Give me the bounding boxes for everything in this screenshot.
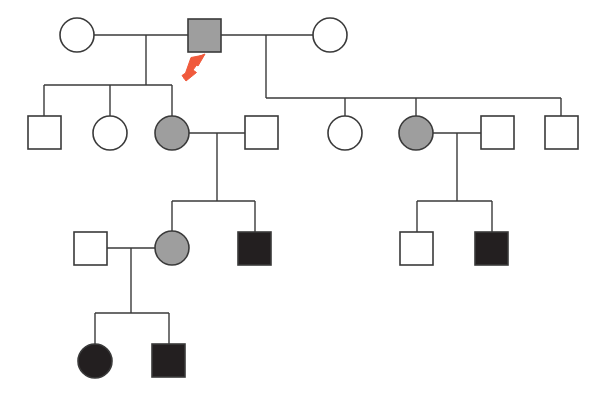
individual-IV-1-female-affected[interactable]: [78, 344, 112, 378]
individual-III-4-male-unaffected[interactable]: [400, 232, 433, 265]
individual-II-1-male-unaffected[interactable]: [28, 116, 61, 149]
individual-II-4-male-unaffected[interactable]: [245, 116, 278, 149]
individual-II-2-female-unaffected[interactable]: [93, 116, 127, 150]
individual-I-1-female-unaffected[interactable]: [60, 18, 94, 52]
individual-I-3-female-unaffected[interactable]: [313, 18, 347, 52]
individual-I-2-male-carrier-proband[interactable]: [188, 19, 221, 52]
pedigree-canvas: [0, 0, 599, 394]
individual-III-3-male-affected[interactable]: [238, 232, 271, 265]
individual-II-7-male-unaffected[interactable]: [481, 116, 514, 149]
individual-III-5-male-affected[interactable]: [475, 232, 508, 265]
individual-II-5-female-unaffected[interactable]: [328, 116, 362, 150]
individual-IV-2-male-affected[interactable]: [152, 344, 185, 377]
individual-III-2-female-carrier[interactable]: [155, 231, 189, 265]
individual-II-6-female-carrier[interactable]: [399, 116, 433, 150]
chart-background: [0, 0, 599, 394]
pedigree-chart: [0, 0, 599, 394]
individual-II-8-male-unaffected[interactable]: [545, 116, 578, 149]
individual-III-1-male-unaffected[interactable]: [74, 232, 107, 265]
individual-II-3-female-carrier[interactable]: [155, 116, 189, 150]
